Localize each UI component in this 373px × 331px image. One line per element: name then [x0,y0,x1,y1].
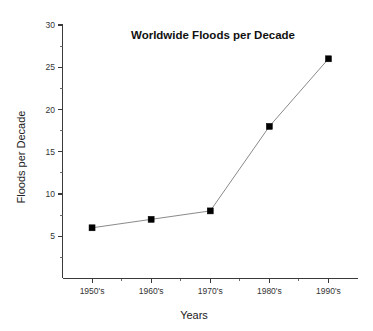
data-point-marker [148,216,154,222]
chart-background [0,0,373,331]
x-tick-label: 1970's [198,286,223,296]
y-tick-label: 25 [46,62,56,72]
y-tick-label: 15 [46,147,56,157]
x-tick-label: 1990's [316,286,341,296]
y-tick-label: 10 [46,189,56,199]
y-tick-label: 5 [50,231,55,241]
data-point-marker [207,208,213,214]
chart-container: Worldwide Floods per Decade 51015202530 … [0,0,373,331]
y-tick-label: 20 [46,105,56,115]
data-point-marker [325,56,331,62]
x-tick-label: 1980's [257,286,282,296]
y-tick-label: 30 [46,20,56,30]
x-tick-label: 1950's [80,286,105,296]
chart-title: Worldwide Floods per Decade [131,29,295,41]
x-tick-label: 1960's [139,286,164,296]
line-chart: Worldwide Floods per Decade 51015202530 … [0,0,373,331]
x-axis-title: Years [180,309,208,321]
data-point-marker [266,123,272,129]
y-axis-title: Floods per Decade [15,111,27,204]
data-point-marker [89,225,95,231]
